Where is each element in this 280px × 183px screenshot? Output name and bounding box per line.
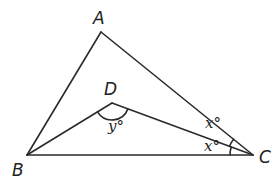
segment-ac <box>101 32 253 155</box>
angle-arc-c-upper <box>230 139 234 146</box>
angle-arc-c-lower <box>230 147 231 155</box>
segment-ab <box>27 32 101 155</box>
vertex-label-c: C <box>259 147 271 167</box>
segment-bd <box>27 103 112 155</box>
diagram-canvas: A B C D x° x° y° <box>0 0 280 183</box>
vertex-label-a: A <box>92 8 105 28</box>
vertex-label-d: D <box>104 79 117 99</box>
vertex-label-b: B <box>12 160 24 180</box>
angle-label-y: y° <box>107 117 124 135</box>
angle-label-x-bottom: x° <box>204 137 220 155</box>
angle-label-x-top: x° <box>205 114 221 132</box>
geometry-diagram: A B C D x° x° y° <box>0 0 280 183</box>
